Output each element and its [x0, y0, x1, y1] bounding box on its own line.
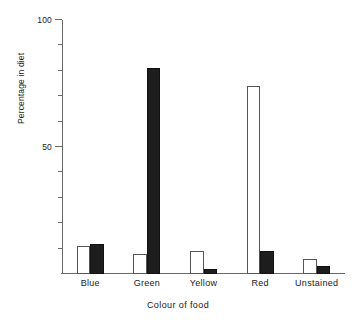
y-axis-minor-tick — [58, 222, 62, 223]
bar-group — [77, 20, 104, 274]
bar-green-black — [147, 68, 161, 274]
x-axis-tick-label-unstained: Unstained — [295, 278, 338, 288]
y-axis-minor-tick — [58, 95, 62, 96]
x-axis-tick-label-yellow: Yellow — [190, 278, 218, 288]
y-axis-minor-tick — [58, 171, 62, 172]
y-axis-tick-label: 50 — [42, 142, 52, 152]
bar-group — [190, 20, 217, 274]
bar-blue-black — [90, 244, 104, 274]
bar-unstained-black — [317, 266, 331, 274]
bar-blue-white — [77, 246, 91, 274]
bar-red-white — [247, 86, 261, 274]
bar-group — [247, 20, 274, 274]
y-axis-minor-tick — [58, 44, 62, 45]
plot-area: 50100 BlueGreenYellowRedUnstained — [62, 20, 345, 274]
y-axis-tick-label: 100 — [37, 15, 52, 25]
y-axis-major-tick — [55, 19, 62, 20]
bar-red-black — [260, 251, 274, 274]
y-axis-major-tick — [55, 146, 62, 147]
bar-group — [133, 20, 160, 274]
x-axis-tick-label-green: Green — [134, 278, 161, 288]
bar-yellow-black — [204, 269, 218, 274]
y-axis-minor-tick — [58, 197, 62, 198]
y-axis-minor-tick — [58, 121, 62, 122]
bar-yellow-white — [190, 251, 204, 274]
bar-unstained-white — [303, 259, 317, 274]
bar-green-white — [133, 254, 147, 274]
chart-figure: Percentage in diet 50100 BlueGreenYellow… — [0, 0, 356, 324]
y-axis-line — [62, 20, 63, 274]
x-axis-tick-label-blue: Blue — [81, 278, 100, 288]
x-axis-label: Colour of food — [0, 300, 356, 310]
y-axis-minor-tick — [58, 70, 62, 71]
bar-group — [303, 20, 330, 274]
y-axis-label: Percentage in diet — [16, 0, 26, 124]
x-axis-tick-label-red: Red — [251, 278, 268, 288]
y-axis-minor-tick — [58, 248, 62, 249]
